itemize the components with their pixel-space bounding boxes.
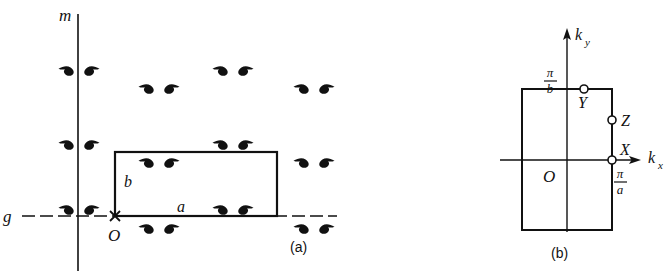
panel-b: k y k x π b π a Y Z X O (b) (500, 26, 663, 261)
axis-label-kx: k x (648, 149, 663, 171)
unit-cell-rectangle (115, 152, 277, 216)
motif-pair (294, 158, 335, 168)
label-point-Y: Y (578, 94, 589, 111)
crystallography-figure: m g O a b (a) k y k x π (0, 0, 671, 271)
tick-label-pi-over-b: π b (544, 65, 557, 96)
label-point-Z: Z (621, 112, 631, 129)
motif-pair (59, 205, 100, 215)
motif-pair (294, 224, 335, 234)
label-cell-edge-a: a (177, 198, 185, 215)
axis-label-ky-subscript: y (584, 36, 590, 48)
symmetry-point-Z (608, 116, 616, 124)
motif-pair (213, 66, 254, 76)
motif-pair (59, 66, 100, 76)
axis-label-ky-base: k (575, 26, 583, 43)
motif-pair (139, 158, 180, 168)
motif-pair (213, 205, 254, 215)
tick-pi-over-b-denominator: b (547, 81, 554, 96)
motif-pair (294, 84, 335, 94)
tick-label-pi-over-a: π a (614, 166, 627, 197)
panel-a: m g O a b (a) (3, 6, 337, 271)
label-point-X: X (619, 141, 631, 158)
label-mirror-m: m (59, 6, 71, 25)
tick-pi-over-b-numerator: π (547, 65, 554, 80)
axis-label-ky: k y (575, 26, 590, 48)
symmetry-point-Y (580, 85, 588, 93)
motif-pair (139, 84, 180, 94)
axis-label-kx-subscript: x (657, 159, 663, 171)
tick-pi-over-a-denominator: a (617, 182, 624, 197)
motif-pair (139, 224, 180, 234)
axis-label-kx-base: k (648, 149, 656, 166)
symmetry-point-X (608, 156, 616, 164)
label-origin-a: O (108, 226, 120, 245)
label-glide-g: g (3, 207, 12, 226)
label-origin-b: O (543, 167, 555, 186)
motif-pair (213, 140, 254, 150)
tick-pi-over-a-numerator: π (617, 166, 624, 181)
label-cell-edge-b: b (124, 173, 132, 190)
figure-canvas: m g O a b (a) k y k x π (0, 0, 671, 271)
caption-panel-a: (a) (290, 239, 307, 255)
motif-pair (59, 140, 100, 150)
caption-panel-b: (b) (551, 245, 568, 261)
